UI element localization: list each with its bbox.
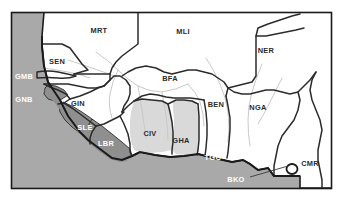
label-cmr: CMR: [301, 159, 319, 168]
label-sen: SEN: [49, 57, 65, 66]
label-sle: SLE: [77, 123, 92, 132]
highlight-light-gha: [172, 100, 199, 155]
label-gin: GIN: [71, 99, 85, 108]
west-africa-map-figure: MRT MLI NER SEN GMB GNB GIN BFA BEN NGA …: [0, 0, 347, 201]
label-gmb: GMB: [15, 72, 33, 81]
label-civ: CIV: [143, 129, 156, 138]
label-gnb: GNB: [15, 95, 32, 104]
label-lbr: LBR: [98, 139, 114, 148]
label-gha: GHA: [172, 136, 190, 145]
map-body: MRT MLI NER SEN GMB GNB GIN BFA BEN NGA …: [11, 12, 332, 189]
label-bfa: BFA: [162, 74, 178, 83]
label-mrt: MRT: [91, 26, 108, 35]
label-nga: NGA: [249, 103, 267, 112]
label-bko: BKO: [227, 175, 244, 184]
label-ner: NER: [258, 46, 275, 55]
label-ben: BEN: [208, 100, 225, 109]
bioko-island-shape: [287, 164, 298, 174]
highlight-light-civ: [130, 99, 173, 153]
label-mli: MLI: [176, 27, 190, 36]
label-tgo: TGO: [205, 153, 222, 162]
map-canvas: MRT MLI NER SEN GMB GNB GIN BFA BEN NGA …: [0, 0, 347, 201]
